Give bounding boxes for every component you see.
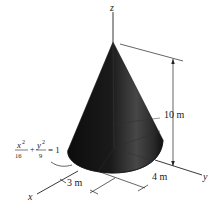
eq-equals: = 1 [48, 145, 60, 155]
cone-diagram: z y x 10 m 4 m 3 m x 2 16 + y 2 9 = 1 [0, 0, 224, 219]
eq-term1-exp: 2 [22, 139, 25, 145]
x-axis-label: x [27, 191, 33, 202]
semi-y-label: 4 m [152, 171, 168, 182]
height-arrow-top [171, 59, 175, 64]
eq-term2-exp: 2 [42, 139, 45, 145]
height-label: 10 m [164, 109, 185, 120]
height-extension-top [120, 44, 183, 61]
base-equation: x 2 16 + y 2 9 = 1 [15, 139, 60, 159]
semi-x-dim-line [90, 178, 115, 193]
semi-y-extension [100, 172, 145, 188]
eq-plus: + [30, 145, 35, 154]
equation-leader [51, 162, 72, 166]
z-axis-label: z [109, 2, 114, 13]
eq-term2-num: y [36, 140, 41, 150]
semi-x-label: 3 m [67, 177, 83, 188]
cone-surface [68, 42, 163, 173]
eq-term2-den: 9 [39, 152, 42, 159]
eq-term1-num: x [16, 140, 21, 150]
eq-term1-den: 16 [15, 152, 22, 159]
y-axis-label: y [202, 171, 208, 182]
